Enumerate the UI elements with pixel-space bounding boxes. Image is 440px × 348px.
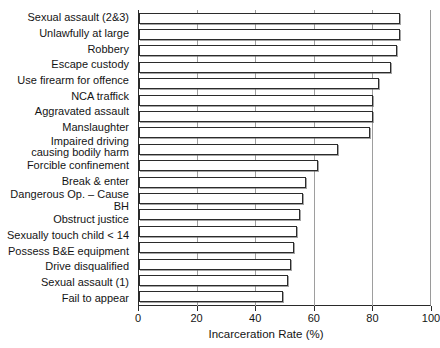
bar — [139, 144, 338, 155]
bar — [139, 259, 291, 270]
y-axis-label: Use firearm for offence — [0, 73, 133, 89]
y-axis-label: Possess B&E equipment — [0, 243, 133, 259]
x-tick-label: 0 — [135, 312, 141, 324]
x-tick-mark — [314, 306, 315, 311]
y-axis-label: Manslaughter — [0, 120, 133, 136]
bar-row — [139, 125, 431, 141]
bar — [139, 127, 370, 138]
bar-row — [139, 59, 431, 75]
x-tick-mark — [431, 306, 432, 311]
y-axis-label: Break & enter — [0, 174, 133, 190]
y-axis-label: Obstruct justice — [0, 212, 133, 228]
bar-row — [139, 256, 431, 272]
y-axis-label: Robbery — [0, 41, 133, 57]
bar-row — [139, 76, 431, 92]
bar — [139, 45, 397, 56]
y-axis-label: Forcible confinement — [0, 158, 133, 174]
bar — [139, 62, 391, 73]
bar-row — [139, 92, 431, 108]
y-axis-label: Sexually touch child < 14 — [0, 228, 133, 244]
bar-series — [139, 10, 431, 305]
y-axis-label: Impaired driving causing bodily harm — [0, 136, 133, 158]
x-tick-label: 60 — [308, 312, 320, 324]
bar-row — [139, 174, 431, 190]
bar-row — [139, 190, 431, 206]
y-axis-label: Unlawfully at large — [0, 26, 133, 42]
y-axis-label: Drive disqualified — [0, 259, 133, 275]
x-tick-mark — [372, 306, 373, 311]
bar-row — [139, 158, 431, 174]
bar-row — [139, 223, 431, 239]
bar-row — [139, 43, 431, 59]
y-axis-label: Sexual assault (1) — [0, 275, 133, 291]
bar-row — [139, 26, 431, 42]
x-tick-label: 40 — [249, 312, 261, 324]
bar-row — [139, 108, 431, 124]
bar — [139, 242, 294, 253]
incarceration-rate-bar-chart: Sexual assault (2&3)Unlawfully at largeR… — [0, 0, 440, 348]
y-axis-category-labels: Sexual assault (2&3)Unlawfully at largeR… — [0, 10, 133, 306]
y-axis-label: Fail to appear — [0, 290, 133, 306]
x-tick-mark — [197, 306, 198, 311]
x-tick-label: 20 — [190, 312, 202, 324]
bar-row — [139, 289, 431, 305]
bar — [139, 193, 303, 204]
bar — [139, 78, 379, 89]
bar — [139, 111, 373, 122]
x-axis-title: Incarceration Rate (%) — [0, 328, 440, 340]
y-axis-label: Sexual assault (2&3) — [0, 10, 133, 26]
bar — [139, 291, 283, 302]
bar — [139, 275, 288, 286]
x-tick-mark — [255, 306, 256, 311]
x-axis-title-text: Incarceration Rate (%) — [116, 328, 323, 340]
bar — [139, 95, 373, 106]
y-axis-label: Aggravated assault — [0, 104, 133, 120]
bar — [139, 160, 318, 171]
bar-row — [139, 10, 431, 26]
y-axis-label: NCA traffick — [0, 89, 133, 105]
bar-row — [139, 141, 431, 157]
plot-area — [138, 10, 431, 306]
bar — [139, 29, 400, 40]
x-tick-label: 80 — [366, 312, 378, 324]
bar — [139, 13, 400, 24]
bar — [139, 177, 306, 188]
bar-row — [139, 207, 431, 223]
bar — [139, 226, 297, 237]
bar-row — [139, 239, 431, 255]
y-axis-label: Dangerous Op. – Cause BH — [0, 189, 133, 211]
y-axis-label: Escape custody — [0, 57, 133, 73]
bar — [139, 209, 300, 220]
x-tick-label: 100 — [422, 312, 440, 324]
x-tick-mark — [138, 306, 139, 311]
bar-row — [139, 272, 431, 288]
